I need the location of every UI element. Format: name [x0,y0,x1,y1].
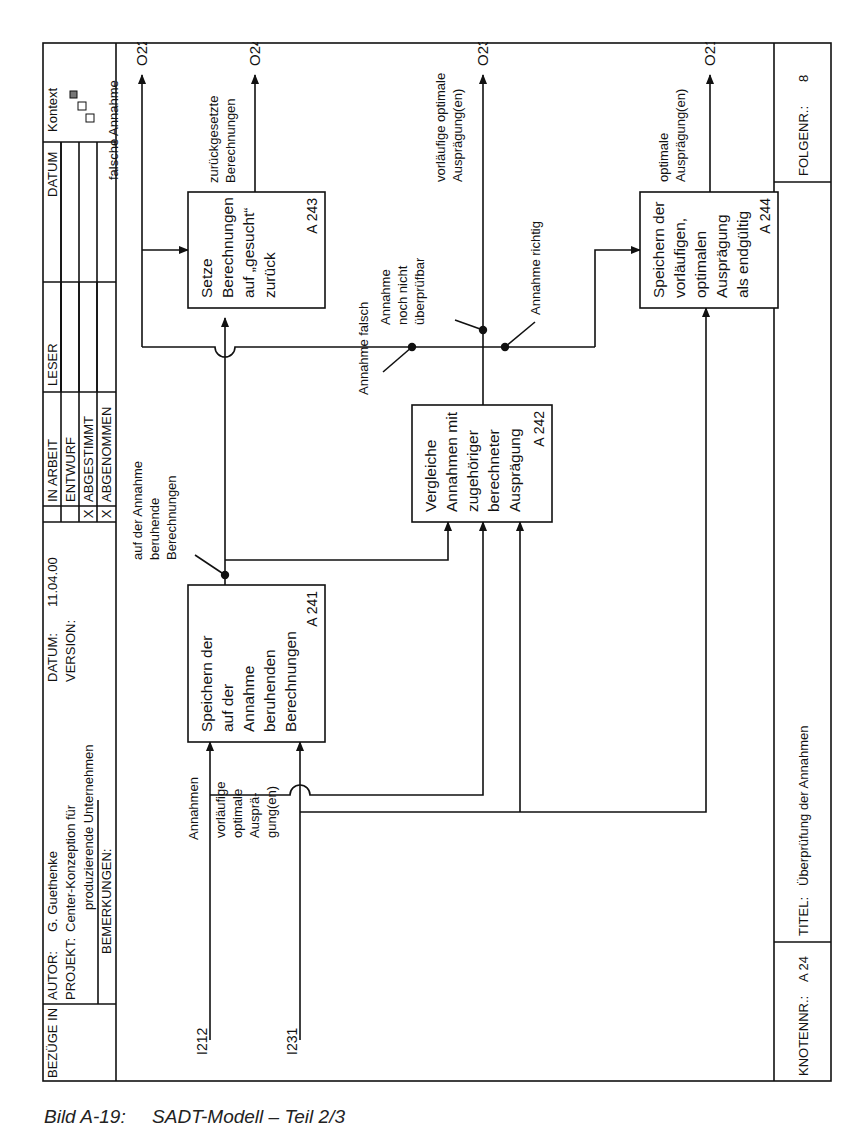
leser-datum-label: DATUM [45,152,60,197]
output-label-o24: Berechnungen [223,98,238,183]
output-code: O24 [246,42,263,66]
titel-label: TITEL: [796,897,811,936]
activity-label: Berechnungen [219,197,236,298]
kontext-label: Kontext [45,88,60,132]
knotennr-label: KNOTENNR.: [796,996,811,1076]
flow-label-falsch: Annahme falsch [356,302,371,395]
input-label-i231: vorläufige [213,782,228,838]
flow-label-beruhende: Berechnungen [164,475,179,560]
activity-label: Ausprägung [506,428,523,512]
projekt-value: Center-Konzeption für [63,804,78,932]
input-code: I231 [284,1028,300,1055]
leader-falsch [383,347,412,372]
output-label-o21: optimale [656,133,671,182]
leader-beruhende [195,555,225,575]
flow-label-nicht-pruefbar: noch nicht [395,265,410,325]
activity-box: SetzeBerechnungenauf „gesucht“zurückA 24… [188,192,325,308]
kontext-box-icon [78,102,86,110]
input-code: I212 [194,1028,210,1055]
footer-block: KNOTENNR.:A 24TITEL:Überprüfung der Anna… [796,75,811,1076]
autor-value: G. Guethenke [45,851,60,932]
flow-label-beruhende: beruhende [147,498,162,560]
titel-value: Überprüfung der Annahmen [796,726,811,886]
output-label-o24: zurückgesetzte [206,96,221,183]
input-label-i231: gung(en) [264,786,279,838]
activity-label: Speichern der [198,635,215,732]
activity-label: auf „gesucht“ [240,208,257,298]
status-label: ABGESTIMMT [81,416,96,502]
output-label-o23: vorläufige optimale [433,73,448,182]
activity-box: VergleicheAnnahmen mitzugehörigerberechn… [412,405,552,522]
activity-label: zugehöriger [464,430,481,512]
page: BEZÜGE INAUTOR:G. GuethenkePROJEKT:Cente… [0,0,864,1128]
a241-to-a242 [225,522,448,560]
output-code: O22 [133,42,150,66]
activity-id: A 243 [304,198,320,234]
bemerkungen-label: BEMERKUNGEN: [99,849,114,954]
flow-label-beruhende: auf der Annahme [130,461,145,560]
kontext-box-active-icon [70,91,77,98]
activity-label: Setze [198,258,215,298]
leader-richtig [505,322,535,347]
output-label-o21: Ausprägung(en) [673,89,688,182]
activity-label: Speichern der [650,201,667,298]
activity-label: optimalen [692,231,709,298]
activity-id: A 244 [757,198,773,234]
activity-label: Vergleiche [422,440,439,512]
version-label: VERSION: [63,620,78,682]
folgenr-label: FOLGENR.: [796,106,811,176]
projekt-value: produzierende Unternehmen [81,745,96,911]
status-mark: X [99,509,114,518]
figure-caption: Bild A-19: SADT-Modell – Teil 2/3 [44,1106,345,1128]
flow-label-nicht-pruefbar: Annahme [378,269,393,325]
activity-label: Berechnungen [282,631,299,732]
status-label: ABGENOMMEN [99,407,114,502]
autor-label: AUTOR: [45,951,60,1000]
input-label-i231: Ausprä- [247,792,262,838]
output-code: O23 [474,42,491,66]
activity-label: auf der [219,684,236,732]
output-label-o23: Ausprägung(en) [450,89,465,182]
activity-label: Ausprägung [713,214,730,298]
activity-label: Annahme [240,666,257,732]
activity-label: beruhenden [261,649,278,732]
status-label: IN ARBEIT [45,439,60,502]
output-code: O21 [701,42,718,66]
activity-id: A 242 [531,411,547,447]
leader-nicht-pruefbar [455,320,483,330]
activity-label: berechneter [485,429,502,512]
status-mark: X [81,509,96,518]
datum-label: DATUM: [45,633,60,682]
knotennr-value: A 24 [796,956,811,982]
activity-box: Speichern derauf derAnnahmeberuhendenBer… [188,585,325,742]
flow-label-richtig: Annahme richtig [528,221,543,315]
sadt-diagram: BEZÜGE INAUTOR:G. GuethenkePROJEKT:Cente… [42,42,832,1082]
activity-label: zurück [261,252,278,298]
flow-label-nicht-pruefbar: überprüfbar [412,257,427,325]
activity-id: A 241 [304,591,320,627]
kontext-box-icon [86,114,94,122]
activity-label: als endgültig [734,211,751,298]
sadt-form: BEZÜGE INAUTOR:G. GuethenkePROJEKT:Cente… [42,42,832,1082]
input-label-i212: Annahmen [186,777,201,840]
projekt-label: PROJEKT: [63,938,78,1000]
output-label-o22: falsche Annahme [106,80,121,180]
activity-box: Speichern dervorläufigen,optimalenAusprä… [640,192,778,308]
bezuege-in-label: BEZÜGE IN [45,1008,60,1078]
folgenr-value: 8 [796,75,811,82]
input-label-i231: optimale [230,789,245,838]
activity-label: Annahmen mit [443,411,460,512]
richtig-to-a244 [595,250,640,347]
status-label: ENTWURF [63,437,78,502]
leser-label: LESER [45,343,60,386]
activity-label: vorläufigen, [671,218,688,298]
datum-value: 11.04.00 [45,557,60,607]
